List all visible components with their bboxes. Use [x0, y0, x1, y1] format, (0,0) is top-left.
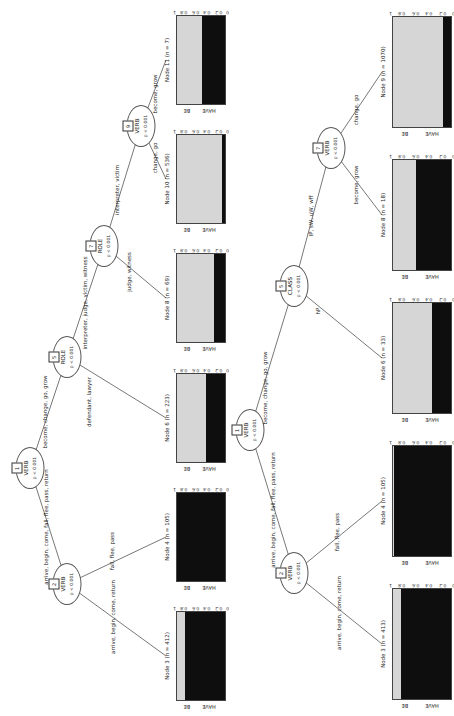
have-fill	[416, 160, 451, 270]
have-label: HAVE	[202, 704, 215, 709]
be-have-stacked-bar	[176, 373, 226, 463]
be-have-stacked-bar	[392, 588, 452, 700]
be-label: BE	[402, 131, 409, 136]
t1-terminal-node-6: 10.80.60.40.20 Node 6 (n = 223) BE HAVE	[176, 373, 226, 463]
edge-label: become, change, go, grow	[263, 351, 269, 424]
be-have-stacked-bar	[176, 611, 226, 701]
axis-ticks: 10.80.60.40.20	[173, 600, 229, 609]
have-label: HAVE	[202, 108, 215, 113]
p-value-label: p < 0.001	[297, 562, 302, 584]
axis-ticks: 10.80.60.40.20	[173, 4, 229, 13]
be-label: BE	[184, 108, 191, 113]
edge-label: fall, flee, pass	[335, 513, 341, 551]
edge-label: interpreter, victim	[115, 165, 121, 215]
have-fill	[401, 589, 451, 699]
be-label: BE	[184, 704, 191, 709]
terminal-title: Node 6 (n = 223)	[165, 394, 171, 442]
be-label: BE	[402, 417, 409, 422]
edge-label: hP	[316, 308, 322, 315]
ctree-figure: VERB p < 0.001 1 VERB p < 0.001 2 ROLE p…	[0, 0, 454, 716]
be-have-stacked-bar	[392, 159, 452, 271]
have-label: HAVE	[202, 585, 215, 590]
terminal-title: Node 8 (n = 69)	[165, 276, 171, 320]
axis-ticks: 10.80.60.40.20	[173, 123, 229, 132]
be-label: BE	[402, 560, 409, 565]
edge-label: arrive, begin, come, return	[111, 580, 117, 654]
have-label: HAVE	[202, 227, 215, 232]
be-have-stacked-bar	[176, 492, 226, 582]
edge-label: change, go	[153, 143, 159, 174]
t2-terminal-node-4: 10.80.60.40.20 Node 4 (n = 105) BE HAVE	[392, 445, 452, 557]
be-have-stacked-bar	[392, 16, 452, 128]
edge-label: interpreter, judge, victim, witness	[83, 256, 89, 349]
p-value-label: p < 0.001	[33, 457, 38, 479]
t2-terminal-node-9: 10.80.60.40.20 Node 9 (n = 1070) BE HAVE	[392, 16, 452, 128]
category-labels: BE HAVE	[176, 465, 226, 476]
axis-ticks: 10.80.60.40.20	[389, 148, 454, 157]
category-labels: BE HAVE	[392, 130, 452, 141]
node-number-badge: 9	[123, 121, 134, 132]
have-fill	[214, 254, 225, 342]
category-labels: BE HAVE	[392, 273, 452, 284]
have-fill	[443, 17, 451, 127]
terminal-title: Node 11 (n = 7)	[165, 38, 171, 82]
category-labels: BE HAVE	[176, 345, 226, 356]
category-labels: BE HAVE	[392, 702, 452, 713]
p-value-label: p < 0.001	[253, 419, 258, 441]
have-fill	[206, 374, 225, 462]
terminal-title: Node 10 (n = 536)	[165, 153, 171, 204]
split-variable-label: VERB	[61, 577, 67, 592]
edge-label: IP, sW, uW, wff	[309, 196, 315, 237]
split-variable-label: ROLE	[98, 239, 104, 254]
have-label: HAVE	[425, 417, 438, 422]
terminal-title: Node 4 (n = 105)	[165, 513, 171, 561]
edge-label: become, change, go, grow	[43, 375, 49, 448]
t1-terminal-node-11: 10.80.60.40.20 Node 11 (n = 7) BE HAVE	[176, 15, 226, 105]
be-label: BE	[184, 346, 191, 351]
axis-ticks: 10.80.60.40.20	[173, 242, 229, 251]
split-variable-label: VERB	[288, 566, 294, 581]
split-variable-label: VERB	[24, 461, 30, 476]
axis-ticks: 10.80.60.40.20	[389, 577, 454, 586]
edge-label: judge, witness	[127, 252, 133, 292]
edge-label: change, go	[354, 95, 360, 126]
category-labels: BE HAVE	[176, 107, 226, 118]
have-fill	[185, 612, 225, 700]
have-fill	[394, 446, 451, 556]
be-have-stacked-bar	[392, 445, 452, 557]
have-label: HAVE	[202, 466, 215, 471]
be-label: BE	[402, 274, 409, 279]
axis-ticks: 10.80.60.40.20	[389, 5, 454, 14]
node-number-badge: 5	[49, 352, 60, 363]
have-fill	[177, 493, 225, 581]
t1-terminal-node-3: 10.80.60.40.20 Node 3 (n = 412) BE HAVE	[176, 611, 226, 701]
have-label: HAVE	[425, 560, 438, 565]
edge-label: defendant, lawyer	[87, 377, 93, 427]
t2-terminal-node-6: 10.80.60.40.20 Node 6 (n = 33) BE HAVE	[392, 302, 452, 414]
axis-ticks: 10.80.60.40.20	[389, 434, 454, 443]
t2-terminal-node-8: 10.80.60.40.20 Node 8 (n = 18) BE HAVE	[392, 159, 452, 271]
split-variable-label: CLASS	[288, 277, 294, 295]
have-label: HAVE	[425, 703, 438, 708]
terminal-title: Node 6 (n = 33)	[381, 336, 387, 380]
edge-label: become, grow	[354, 166, 360, 205]
be-label: BE	[402, 703, 409, 708]
terminal-title: Node 4 (n = 105)	[381, 477, 387, 525]
split-variable-label: VERB	[244, 423, 250, 438]
axis-ticks: 10.80.60.40.20	[389, 291, 454, 300]
terminal-title: Node 3 (n = 412)	[165, 632, 171, 680]
p-value-label: p < 0.001	[70, 573, 75, 595]
p-value-label: p < 0.001	[334, 137, 339, 159]
p-value-label: p < 0.001	[297, 275, 302, 297]
be-have-stacked-bar	[176, 134, 226, 224]
split-variable-label: VERB	[325, 141, 331, 156]
node-number-badge: 7	[313, 143, 324, 154]
edge-label: become, grow	[153, 75, 159, 114]
edge-label: arrive, begin, come, return	[337, 576, 343, 650]
be-label: BE	[184, 585, 191, 590]
category-labels: BE HAVE	[392, 416, 452, 427]
be-label: BE	[184, 227, 191, 232]
t1-terminal-node-10: 10.80.60.40.20 Node 10 (n = 536) BE HAVE	[176, 134, 226, 224]
node-number-badge: 2	[49, 579, 60, 590]
have-label: HAVE	[425, 131, 438, 136]
